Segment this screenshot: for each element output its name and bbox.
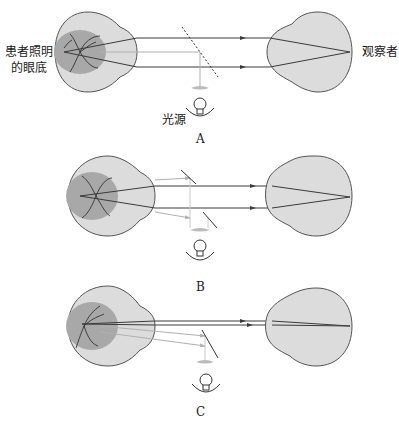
- patient-eye: [66, 156, 155, 236]
- panel-c: [66, 286, 352, 392]
- light-source-label: 光源: [162, 112, 186, 128]
- observer-eye: [266, 288, 353, 366]
- observer-eye: [266, 156, 353, 236]
- light-bulb-icon: [186, 98, 214, 116]
- observer-label: 观察者: [362, 44, 398, 60]
- mirror: [202, 330, 218, 358]
- mirror-upper: [181, 170, 196, 184]
- panel-label-c: C: [196, 405, 205, 419]
- condenser-lens: [191, 86, 209, 90]
- fundus: [66, 302, 118, 350]
- observer-eye: [267, 12, 352, 92]
- panel-b: [66, 156, 352, 260]
- condenser-lens: [196, 360, 214, 364]
- condenser-lens: [190, 228, 210, 232]
- panel-a: [54, 12, 352, 116]
- patient-eye: [66, 286, 155, 366]
- panel-label-b: B: [196, 280, 205, 294]
- fundus: [66, 172, 118, 220]
- patient-label-line1: 患者照明: [2, 44, 56, 60]
- light-bulb-icon: [192, 374, 220, 392]
- ophthalmoscope-diagram: [0, 0, 399, 425]
- light-bulb-icon: [186, 240, 214, 260]
- mirror-lower: [203, 212, 217, 228]
- patient-label-line2: 的眼底: [2, 60, 56, 76]
- panel-label-a: A: [196, 132, 205, 146]
- patient-fundus-label: 患者照明 的眼底: [2, 44, 56, 76]
